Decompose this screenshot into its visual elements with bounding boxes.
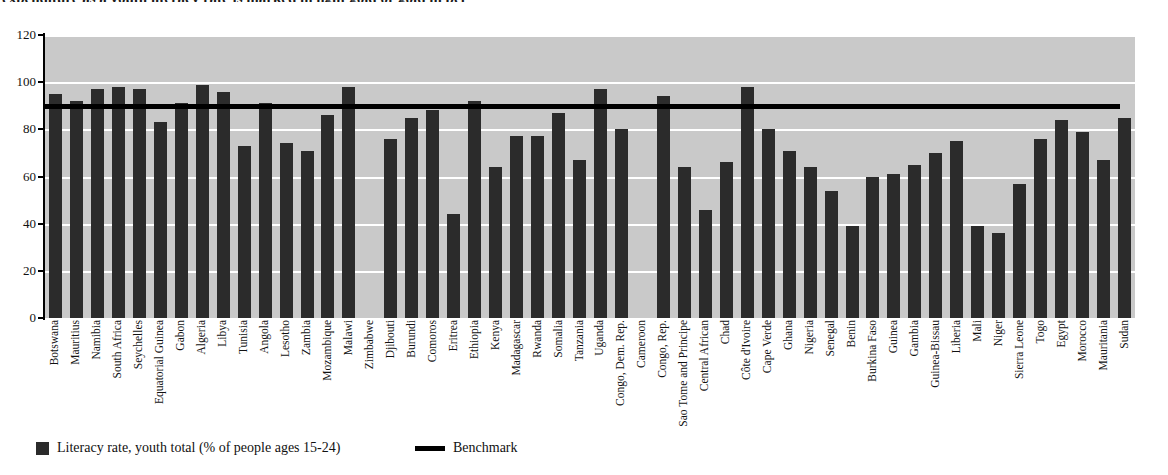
bar-slot [762, 35, 775, 318]
bar-slot [846, 35, 859, 318]
bar-slot [175, 35, 188, 318]
x-tick-label: Uganda [594, 320, 606, 356]
bar [1013, 184, 1026, 318]
x-tick-label: Angola [259, 320, 271, 354]
bar-slot [908, 35, 921, 318]
bar [1076, 132, 1089, 318]
bar-slot [468, 35, 481, 318]
bar-slot [1097, 35, 1110, 318]
bar-slot [971, 35, 984, 318]
bar-slot [154, 35, 167, 318]
y-axis-tick [38, 270, 45, 272]
bar-slot [301, 35, 314, 318]
x-tick-label: Seychelles [133, 320, 145, 369]
x-tick-label: Djibouti [385, 320, 397, 358]
x-tick-label: Nigeria [804, 320, 816, 354]
bar [1034, 139, 1047, 318]
x-tick-label: Burkina Faso [867, 320, 879, 382]
x-tick-label: Senegal [825, 320, 837, 356]
line-swatch-icon [415, 446, 445, 451]
y-axis-tick [38, 176, 45, 178]
y-axis-tick [38, 223, 45, 225]
bar [657, 96, 670, 318]
x-tick-label: Comoros [427, 320, 439, 362]
bar [762, 129, 775, 318]
bar-slot [825, 35, 838, 318]
bar [741, 87, 754, 318]
legend-series-label: Literacy rate, youth total (% of people … [57, 440, 340, 456]
bar-slot [1013, 35, 1026, 318]
x-tick-label: Kenya [490, 320, 502, 350]
bar [699, 210, 712, 318]
x-tick-label: Namibia [91, 320, 103, 360]
y-axis-tick [38, 34, 45, 36]
x-tick-label: Egypt [1056, 320, 1068, 347]
bar-slot [678, 35, 691, 318]
y-axis-tick [38, 317, 45, 319]
bar [783, 151, 796, 318]
bar [1055, 120, 1068, 318]
chart-legend: Literacy rate, youth total (% of people … [0, 438, 1168, 462]
x-axis-labels: BotswanaMauritiusNamibiaSouth AfricaSeyc… [45, 320, 1135, 435]
bar-slot [489, 35, 502, 318]
chart-title: expenditure as a youth literacy rate is … [0, 0, 1168, 2]
y-axis-tick [38, 128, 45, 130]
x-tick-label: Eritrea [448, 320, 460, 351]
bar-slot [1076, 35, 1089, 318]
bar [992, 233, 1005, 318]
x-tick-label: Somalia [553, 320, 565, 358]
legend-item-series: Literacy rate, youth total (% of people … [36, 440, 340, 456]
bar-slot [531, 35, 544, 318]
bar [280, 143, 293, 318]
bar [510, 136, 523, 318]
y-tick-label: 100 [6, 74, 36, 90]
bar-slot [384, 35, 397, 318]
x-tick-label: Ethiopia [469, 320, 481, 359]
bar-series [45, 35, 1135, 318]
bar-slot [657, 35, 670, 318]
bar-slot [280, 35, 293, 318]
x-tick-label: Benin [846, 320, 858, 347]
bar-slot [238, 35, 251, 318]
bar-slot [321, 35, 334, 318]
x-tick-label: Cameroon [636, 320, 648, 368]
bar-slot [447, 35, 460, 318]
x-tick-label: Mauritania [1098, 320, 1110, 370]
bar [678, 167, 691, 318]
x-tick-label: Congo, Dem. Rep. [615, 320, 627, 406]
bar [825, 191, 838, 318]
x-tick-label: Guinea-Bissau [930, 320, 942, 388]
y-tick-label: 40 [6, 216, 36, 232]
bar-slot [91, 35, 104, 318]
bar-slot [594, 35, 607, 318]
bar [1097, 160, 1110, 318]
bar-slot [217, 35, 230, 318]
x-tick-label: Sierra Leone [1014, 320, 1026, 379]
bar [950, 141, 963, 318]
bar [866, 177, 879, 319]
bar [573, 160, 586, 318]
y-tick-label: 120 [6, 27, 36, 43]
bar-slot [887, 35, 900, 318]
legend-item-benchmark: Benchmark [415, 440, 518, 456]
x-tick-label: Mali [972, 320, 984, 342]
x-tick-label: Lesotho [280, 320, 292, 357]
x-tick-label: Niger [993, 320, 1005, 346]
chart-page: expenditure as a youth literacy rate is … [0, 0, 1168, 475]
bar [238, 146, 251, 318]
y-tick-label: 20 [6, 263, 36, 279]
bar-swatch-icon [36, 442, 49, 455]
y-tick-label: 80 [6, 121, 36, 137]
x-tick-label: Libya [217, 320, 229, 347]
x-tick-label: Congo, Rep. [657, 320, 669, 378]
x-tick-label: Tunisia [238, 320, 250, 354]
y-tick-label: 60 [6, 169, 36, 185]
bar-slot [720, 35, 733, 318]
bar [929, 153, 942, 318]
bar-slot [950, 35, 963, 318]
bar [594, 89, 607, 318]
x-tick-label: Mozambique [322, 320, 334, 381]
x-tick-label: Rwanda [532, 320, 544, 358]
x-tick-label: Algeria [196, 320, 208, 354]
x-tick-label: Chad [720, 320, 732, 344]
